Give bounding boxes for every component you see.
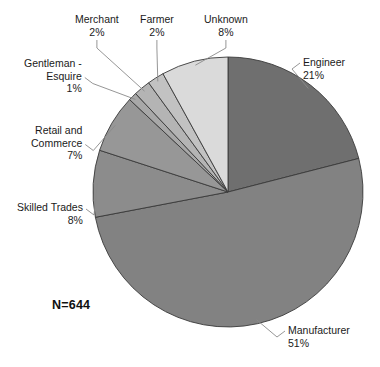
pie-label-name-skilled-trades: Skilled Trades — [17, 201, 83, 214]
leader-line-farmer — [157, 40, 158, 81]
pie-label-engineer: Engineer21% — [303, 56, 345, 81]
pie-label-percent-manufacturer: 51% — [288, 337, 350, 350]
pie-label-percent-merchant: 2% — [75, 26, 119, 39]
pie-label-name-retail-and-commerce: Retail and Commerce — [31, 124, 82, 149]
pie-label-manufacturer: Manufacturer51% — [288, 324, 350, 349]
pie-label-name-manufacturer: Manufacturer — [288, 324, 350, 337]
pie-label-farmer: Farmer2% — [140, 13, 174, 38]
pie-label-name-merchant: Merchant — [75, 13, 119, 26]
pie-label-percent-gentleman-esquire: 1% — [24, 82, 82, 95]
pie-label-name-farmer: Farmer — [140, 13, 174, 26]
pie-label-percent-farmer: 2% — [140, 26, 174, 39]
pie-label-percent-retail-and-commerce: 7% — [31, 149, 82, 162]
leader-line-gentleman-esquire — [85, 78, 136, 100]
pie-label-percent-engineer: 21% — [303, 69, 345, 82]
pie-label-merchant: Merchant2% — [75, 13, 119, 38]
pie-label-unknown: Unknown8% — [204, 13, 248, 38]
pie-label-name-engineer: Engineer — [303, 56, 345, 69]
sample-size-label: N=644 — [52, 298, 90, 312]
pie-slices-group — [93, 57, 363, 327]
pie-label-name-gentleman-esquire: Gentleman - Esquire — [24, 57, 82, 82]
pie-label-percent-unknown: 8% — [204, 26, 248, 39]
leader-line-merchant — [97, 40, 145, 91]
pie-chart-figure: Engineer21%Manufacturer51%Skilled Trades… — [0, 0, 380, 367]
pie-label-percent-skilled-trades: 8% — [17, 214, 83, 227]
pie-label-skilled-trades: Skilled Trades8% — [17, 201, 83, 226]
pie-label-name-unknown: Unknown — [204, 13, 248, 26]
pie-label-retail-and-commerce: Retail and Commerce7% — [31, 124, 82, 162]
pie-label-gentleman-esquire: Gentleman - Esquire1% — [24, 57, 82, 95]
